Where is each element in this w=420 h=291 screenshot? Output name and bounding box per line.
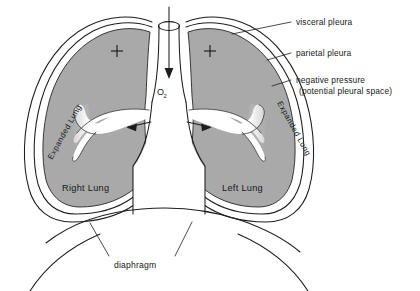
negative-pressure-label: negative pressure xyxy=(296,75,365,85)
visceral-pleura-label: visceral pleura xyxy=(296,17,352,27)
negative-pressure-sublabel: (potential pleural space) xyxy=(299,86,392,96)
left-lung-label: Left Lung xyxy=(222,183,263,193)
diaphragm-label: diaphragm xyxy=(114,260,156,270)
svg-text:2: 2 xyxy=(164,93,168,99)
right-lung-label: Right Lung xyxy=(62,183,109,193)
lung-anatomy-diagram: Right Lung Expanded Lung Left Lung Expan… xyxy=(0,0,420,291)
diagram-canvas: Right Lung Expanded Lung Left Lung Expan… xyxy=(0,0,420,291)
parietal-pleura-label: parietal pleura xyxy=(296,48,352,58)
